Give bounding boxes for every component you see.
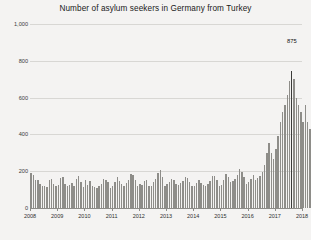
x-tick-mark-2010 — [84, 208, 85, 211]
x-tick-mark-2018 — [302, 208, 303, 211]
bar — [273, 159, 274, 208]
bar — [234, 179, 235, 208]
bar — [271, 153, 272, 208]
y-tick-label-800: 800 — [2, 58, 28, 64]
bar — [239, 169, 240, 208]
bar — [101, 184, 102, 208]
bar — [144, 181, 145, 208]
x-tick-mark-2012 — [139, 208, 140, 211]
bar — [39, 184, 40, 208]
bar — [87, 185, 88, 208]
x-tick-mark-2013 — [166, 208, 167, 211]
bar — [128, 180, 129, 208]
bar — [132, 175, 133, 208]
bar — [46, 187, 47, 208]
y-tick-label-600: 600 — [2, 95, 28, 101]
x-tick-label-2011: 2011 — [106, 213, 118, 219]
y-tick-label-0: 0 — [2, 205, 28, 211]
bar — [49, 180, 50, 208]
bar — [164, 186, 165, 208]
bar — [182, 181, 183, 208]
bar — [98, 186, 99, 208]
bar — [309, 129, 310, 208]
bar — [209, 181, 210, 208]
bar — [232, 181, 233, 208]
bar — [117, 177, 118, 208]
x-tick-label-2017: 2017 — [269, 213, 281, 219]
bar — [259, 176, 260, 208]
bar — [219, 186, 220, 208]
bar — [255, 180, 256, 208]
chart-container: Number of asylum seekers in Germany from… — [0, 0, 311, 240]
x-tick-label-2012: 2012 — [133, 213, 145, 219]
bar — [253, 175, 254, 208]
bar — [180, 183, 181, 208]
bar — [307, 122, 308, 208]
x-tick-mark-2016 — [248, 208, 249, 211]
bar — [173, 180, 174, 208]
bar — [105, 180, 106, 208]
bar — [205, 186, 206, 208]
x-tick-mark-2015 — [220, 208, 221, 211]
bar — [243, 177, 244, 208]
x-tick-mark-2008 — [30, 208, 31, 211]
y-tick-label-200: 200 — [2, 168, 28, 174]
x-tick-label-2018: 2018 — [296, 213, 308, 219]
bar — [60, 178, 61, 208]
bar — [196, 183, 197, 208]
x-tick-label-2014: 2014 — [187, 213, 199, 219]
bar — [225, 174, 226, 208]
bar — [264, 165, 265, 208]
bar — [241, 172, 242, 208]
bar — [123, 186, 124, 208]
bar — [55, 186, 56, 208]
bar — [277, 136, 278, 208]
x-tick-label-2015: 2015 — [214, 213, 226, 219]
bar — [275, 149, 276, 208]
bar — [33, 175, 34, 208]
bar — [166, 184, 167, 208]
bar — [175, 184, 176, 208]
bar — [42, 186, 43, 208]
x-tick-mark-2009 — [57, 208, 58, 211]
peak-value-label: 875 — [287, 38, 297, 44]
bar — [248, 182, 249, 208]
bar — [96, 188, 97, 208]
bar — [130, 174, 131, 208]
bar — [151, 186, 152, 208]
bar — [103, 179, 104, 208]
bar — [237, 175, 238, 208]
bar — [296, 98, 297, 208]
bar — [94, 187, 95, 208]
bar — [30, 173, 31, 208]
bar — [67, 186, 68, 208]
bar — [298, 105, 299, 208]
bar — [107, 182, 108, 208]
bar — [250, 179, 251, 208]
bar-series — [30, 24, 302, 208]
bar — [137, 186, 138, 208]
bar — [37, 180, 38, 208]
bar — [160, 170, 161, 208]
bar — [178, 185, 179, 208]
bar — [85, 180, 86, 208]
bar — [110, 188, 111, 208]
bar — [228, 177, 229, 208]
bar — [200, 183, 201, 208]
x-tick-label-2009: 2009 — [51, 213, 63, 219]
bar — [223, 180, 224, 208]
bar — [114, 182, 115, 208]
bar — [62, 177, 63, 208]
bar — [189, 182, 190, 208]
bar — [289, 81, 290, 208]
bar — [280, 122, 281, 208]
bar — [141, 185, 142, 208]
bar — [157, 173, 158, 208]
bar — [216, 180, 217, 208]
bar — [83, 187, 84, 208]
bar — [302, 122, 303, 208]
bar — [268, 143, 269, 208]
bar — [112, 186, 113, 208]
bar — [291, 71, 292, 208]
x-tick-label-2010: 2010 — [78, 213, 90, 219]
